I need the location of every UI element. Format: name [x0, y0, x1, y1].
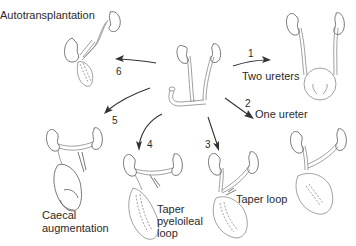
label-caecal-line1: Caecal — [42, 209, 76, 221]
illustration-one-ureter — [291, 129, 347, 214]
number-1: 1 — [248, 48, 254, 59]
number-2: 2 — [245, 98, 251, 109]
center-illustration — [169, 44, 221, 106]
label-taper-pyeloileal-line2: pyeloileal — [157, 215, 203, 227]
arrow-6 — [115, 55, 156, 63]
label-taper-pyeloileal-line1: Taper — [157, 203, 185, 215]
label-autotransplantation: Autotransplantation — [0, 9, 95, 21]
number-3: 3 — [205, 139, 211, 150]
label-two-ureters: Two ureters — [242, 70, 299, 82]
illustration-autotransplantation — [65, 12, 121, 87]
number-4: 4 — [147, 139, 153, 150]
diagram-canvas: Autotransplantation 6 1 Two ureters 2 On… — [0, 0, 356, 246]
illustration-caecal-augmentation — [47, 128, 103, 211]
arrow-5 — [104, 88, 150, 114]
number-6: 6 — [116, 66, 122, 77]
label-one-ureter: One ureter — [255, 108, 308, 120]
illustration-two-ureters — [287, 13, 345, 100]
label-taper-pyeloileal-line3: loop — [157, 227, 178, 239]
number-5: 5 — [112, 115, 118, 126]
label-taper-loop: Taper loop — [236, 193, 287, 205]
label-caecal-line2: augmentation — [42, 222, 109, 234]
